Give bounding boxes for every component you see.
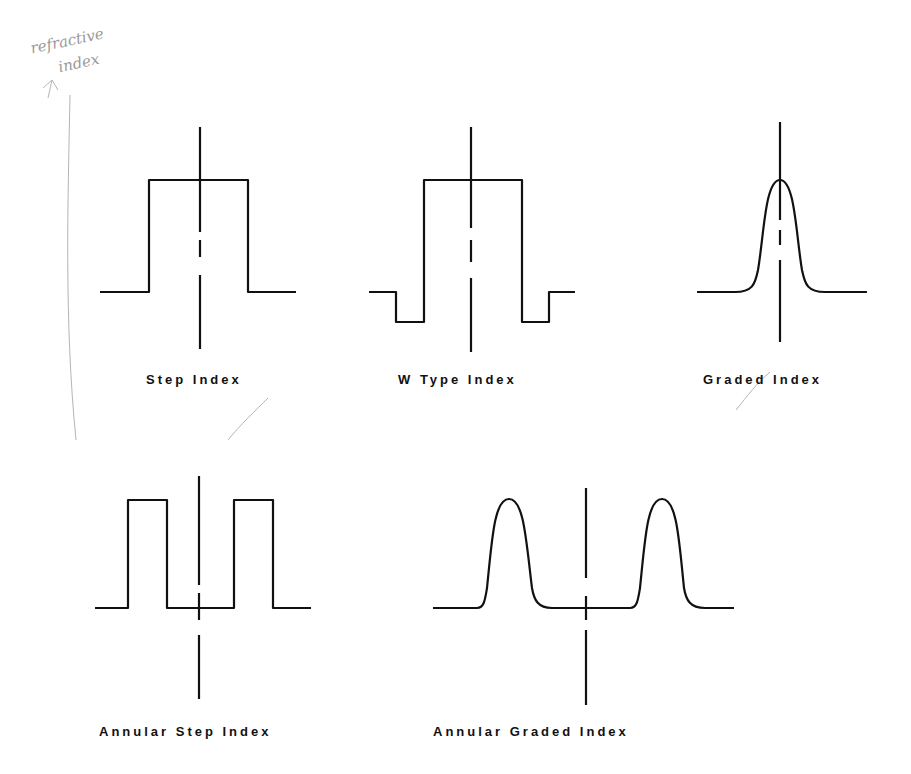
annular-graded-index-profile [433, 488, 734, 705]
annular-step-index-label: Annular Step Index [99, 724, 271, 739]
graded-index-label: Graded Index [703, 372, 822, 387]
diagram-canvas [0, 0, 911, 774]
graded-index-profile [697, 122, 867, 342]
step-index-label: Step Index [146, 372, 242, 387]
w-type-index-label: W Type Index [398, 372, 517, 387]
annular-graded-index-label: Annular Graded Index [433, 724, 629, 739]
annular-step-index-profile [95, 476, 311, 699]
step-index-profile [100, 127, 296, 349]
w-type-index-profile [369, 127, 575, 352]
